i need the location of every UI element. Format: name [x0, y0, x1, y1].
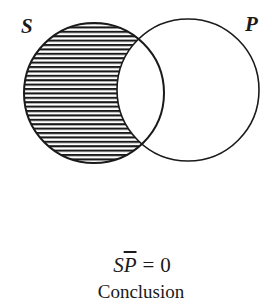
formula-equals: = — [142, 253, 154, 277]
set-label-p: P — [245, 14, 258, 35]
shaded-region-s-not-p — [20, 22, 170, 167]
set-label-s: S — [21, 16, 33, 37]
formula-value: 0 — [160, 253, 171, 277]
venn-diagram: S P SP=0 Conclusion — [0, 0, 272, 306]
formula-subject: S — [113, 253, 124, 277]
caption: Conclusion — [0, 282, 272, 301]
formula-negated-predicate: P — [124, 253, 137, 277]
formula: SP=0 — [0, 255, 272, 276]
